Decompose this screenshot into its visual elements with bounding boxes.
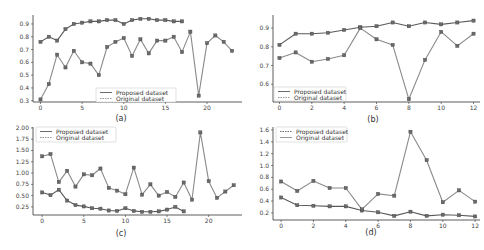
data-marker [72, 49, 75, 52]
data-marker [407, 25, 410, 28]
data-marker [278, 43, 281, 46]
data-marker [107, 186, 110, 189]
y-tick-label: 0.25 [16, 203, 30, 210]
data-marker [130, 54, 133, 57]
y-tick-label: 0.4 [19, 84, 29, 91]
y-tick-label: 0.9 [259, 24, 269, 31]
y-tick-label: 0.75 [16, 180, 30, 187]
data-marker [328, 186, 331, 189]
data-marker [107, 209, 110, 212]
y-tick-label: 0.2 [259, 209, 269, 216]
data-marker [296, 189, 299, 192]
y-tick-label: 1.0 [259, 162, 269, 169]
data-marker [106, 45, 109, 48]
x-tick-label: 0 [278, 104, 282, 111]
data-marker [165, 190, 168, 193]
data-marker [132, 166, 135, 169]
y-tick-label: 0.4 [259, 197, 269, 204]
data-marker [81, 21, 84, 24]
legend: Proposed datasetOriginal dataset [276, 127, 349, 142]
data-marker [474, 200, 477, 203]
data-marker [164, 19, 167, 22]
x-tick-label: 12 [471, 222, 479, 229]
x-tick-label: 0 [279, 222, 283, 229]
data-marker [47, 82, 50, 85]
data-marker [164, 39, 167, 42]
data-marker [294, 51, 297, 54]
x-tick-label: 10 [122, 217, 130, 224]
y-tick-label: 1.00 [16, 169, 30, 176]
x-tick-label: 5 [82, 217, 86, 224]
data-marker [174, 205, 177, 208]
data-marker [180, 20, 183, 23]
data-marker [360, 208, 363, 211]
data-marker [56, 39, 59, 42]
data-marker [82, 205, 85, 208]
y-tick-label: 0.8 [259, 43, 269, 50]
data-marker [66, 169, 69, 172]
data-marker [344, 205, 347, 208]
data-marker [72, 22, 75, 25]
data-marker [207, 180, 210, 183]
data-marker [180, 51, 183, 54]
data-marker [377, 192, 380, 195]
x-tick-label: 15 [163, 217, 171, 224]
series-proposed [39, 17, 184, 43]
legend: Proposed datasetOriginal dataset [36, 127, 116, 142]
x-tick-label: 4 [342, 104, 346, 111]
data-marker [64, 27, 67, 30]
x-tick-label: 20 [203, 104, 211, 111]
data-marker [114, 40, 117, 43]
data-marker [97, 20, 100, 23]
y-tick-label: 0.6 [19, 58, 29, 65]
data-marker [232, 184, 235, 187]
data-marker [409, 130, 412, 133]
data-marker [407, 98, 410, 101]
data-marker [124, 193, 127, 196]
y-tick-label: 1.50 [16, 146, 30, 153]
data-marker [224, 190, 227, 193]
y-tick-label: 1.75 [16, 135, 30, 142]
data-marker [310, 32, 313, 35]
data-marker [457, 189, 460, 192]
y-tick-label: 0.7 [19, 46, 29, 53]
legend-label: Original dataset [116, 95, 165, 103]
data-marker [49, 194, 52, 197]
data-marker [312, 204, 315, 207]
data-marker [149, 210, 152, 213]
data-marker [279, 180, 282, 183]
data-marker [425, 159, 428, 162]
data-marker [222, 40, 225, 43]
data-marker [279, 196, 282, 199]
data-marker [199, 131, 202, 134]
data-marker [441, 201, 444, 204]
data-marker [39, 98, 42, 101]
x-tick-label: 6 [376, 222, 380, 229]
y-tick-label: 0.8 [259, 173, 269, 180]
data-marker [441, 213, 444, 216]
data-marker [328, 205, 331, 208]
x-tick-label: 0 [39, 104, 43, 111]
figure-canvas: 0.30.40.50.60.70.80.905101520Proposed da… [0, 0, 484, 250]
data-marker [189, 30, 192, 33]
data-marker [89, 20, 92, 23]
data-marker [230, 49, 233, 52]
data-marker [172, 35, 175, 38]
y-tick-label: 1.25 [16, 158, 30, 165]
legend-label: Original dataset [56, 134, 105, 142]
data-marker [97, 74, 100, 77]
data-marker [114, 19, 117, 22]
data-marker [115, 209, 118, 212]
y-tick-label: 1.6 [259, 126, 269, 133]
data-marker [157, 194, 160, 197]
data-marker [132, 209, 135, 212]
y-tick-label: 0.9 [19, 20, 29, 27]
data-marker [474, 215, 477, 218]
data-marker [147, 17, 150, 20]
data-marker [41, 155, 44, 158]
panel-caption: (c) [116, 229, 127, 238]
data-marker [310, 60, 313, 63]
data-marker [457, 214, 460, 217]
x-tick-label: 8 [409, 222, 413, 229]
data-marker [182, 181, 185, 184]
